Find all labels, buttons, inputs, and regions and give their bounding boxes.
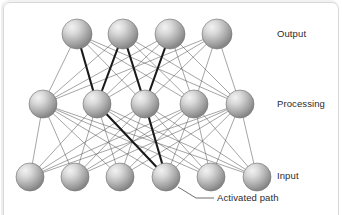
node-input: [16, 163, 44, 191]
node-processing: [29, 90, 57, 118]
callout-label-activated-path: Activated path: [217, 192, 279, 203]
node-input: [152, 163, 180, 191]
layer-label-processing: Processing: [277, 98, 325, 109]
node-input: [61, 163, 89, 191]
node-output: [202, 19, 232, 49]
figure-container: Output Processing Input Activated path: [0, 0, 342, 215]
node-input: [197, 163, 225, 191]
node-input: [106, 163, 134, 191]
layer-label-output: Output: [277, 28, 306, 39]
node-processing: [180, 90, 208, 118]
node-group: [16, 19, 271, 191]
node-processing: [83, 90, 111, 118]
node-input: [243, 163, 271, 191]
node-processing: [226, 90, 254, 118]
layer-label-input: Input: [277, 170, 299, 181]
node-output: [108, 19, 138, 49]
node-processing: [131, 90, 159, 118]
node-output: [62, 19, 92, 49]
node-output: [155, 19, 185, 49]
